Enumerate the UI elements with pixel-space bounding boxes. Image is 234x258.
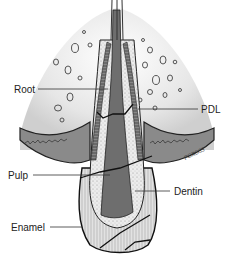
label-pulp: Pulp <box>8 170 28 181</box>
tooth-anatomy-diagram: Root PDL Pulp Dentin Enamel PGROSS <box>0 0 234 258</box>
label-root: Root <box>14 84 35 95</box>
label-pdl: PDL <box>201 104 221 115</box>
label-enamel: Enamel <box>11 222 45 233</box>
label-dentin: Dentin <box>174 186 203 197</box>
